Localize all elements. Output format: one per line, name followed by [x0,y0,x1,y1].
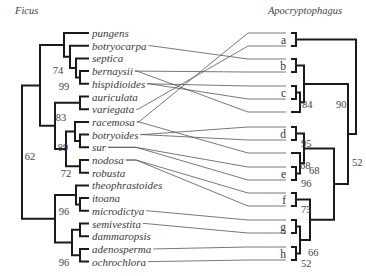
ficus-title: Ficus [14,5,38,16]
taxon-label: itoana [92,192,121,204]
support-value: 83 [56,112,67,123]
support-value: 90 [336,99,347,110]
association-line [135,71,286,72]
taxon-label: ochrochlora [92,256,146,268]
clade-label: b [280,60,286,72]
taxon-label: theophrastoides [92,179,162,191]
association-line [140,135,286,140]
support-value: 96 [59,257,70,268]
branch [70,46,88,68]
support-value: 68 [309,165,320,176]
branch [76,185,88,204]
branch [80,97,88,110]
branch [80,224,88,237]
branch [80,71,88,84]
branch [80,135,88,148]
apocryptophagus-title: Apocryptophagus [267,5,342,16]
clade-label: d [280,128,286,140]
support-value: 72 [61,168,72,179]
support-value: 74 [53,65,64,76]
support-value: 84 [302,99,313,110]
branch [80,160,88,173]
support-value: 75 [301,204,312,215]
ficus-support-values: 7499838972629696 [25,65,72,268]
branch [72,230,80,255]
taxon-label: botryoides [92,129,138,141]
taxon-label: auriculata [92,91,138,103]
branch [80,249,88,262]
taxon-label: robusta [92,167,126,179]
support-value: 95 [301,138,312,149]
support-value: 62 [25,151,36,162]
taxon-label: variegata [92,103,135,115]
taxon-label: racemosa [92,116,135,128]
support-value: 96 [301,178,312,189]
support-value: 96 [59,206,70,217]
association-line [148,260,286,262]
clade-label: f [282,194,286,206]
clade-label: h [280,248,286,260]
clade-label: g [280,221,286,234]
association-line [108,147,286,167]
association-line [146,211,286,220]
branch [80,198,88,211]
cophylogeny-figure: Ficus Apocryptophagus pungensbotryocarpa… [0,0,366,276]
association-line [137,122,286,153]
support-value: 52 [301,258,312,269]
taxon-label: adenosperma [92,243,152,255]
clade-label: e [281,168,286,180]
association-line [143,224,286,234]
association-line [140,127,286,135]
support-value: 52 [352,157,363,168]
association-line [147,84,286,86]
clade-label: c [281,87,286,99]
association-line [148,46,286,59]
taxon-label: botryocarpa [92,40,147,52]
clade-label: a [281,34,286,46]
taxon-label: hispidioides [92,78,145,90]
apocryptophagus-support-values: 84905295689668756652 [300,99,363,269]
taxon-label: pungens [91,27,129,39]
taxon-label: semivestita [92,218,141,230]
taxon-label: dammaropsis [92,230,151,242]
support-value: 66 [308,247,319,258]
association-line [108,147,286,180]
association-line [153,247,286,249]
association-line [135,71,286,112]
taxon-label: microdictya [92,205,145,217]
support-value: 99 [59,81,70,92]
taxon-label: septica [92,52,124,64]
taxon-label: nodosa [92,154,124,166]
taxon-label: bernaysii [92,65,133,77]
apocryptophagus-clades: abcdefgh [280,34,286,260]
taxon-label: sur [92,141,107,153]
support-value: 89 [58,142,69,153]
branch [76,58,88,77]
association-line [136,46,286,109]
branch [75,122,88,141]
